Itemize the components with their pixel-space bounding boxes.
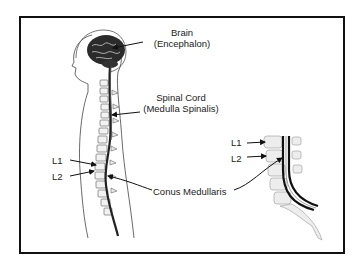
- brain-label: Brain (Encephalon): [146, 27, 218, 49]
- l1-label-right: L1: [231, 137, 242, 148]
- l2-label-right: L2: [231, 153, 242, 164]
- spinal-cord-label: Spinal Cord (Medulla Spinalis): [138, 92, 224, 114]
- conus-medullaris-label: Conus Medullaris: [153, 186, 226, 197]
- brain-label-subtitle: (Encephalon): [146, 38, 218, 49]
- spinal-cord-label-subtitle: (Medulla Spinalis): [138, 103, 224, 114]
- spinal-cord-label-title: Spinal Cord: [138, 92, 224, 103]
- l1-label-left: L1: [52, 155, 63, 166]
- brain-icon: [87, 35, 125, 68]
- brain-label-title: Brain: [146, 27, 218, 38]
- l2-label-left: L2: [52, 171, 63, 182]
